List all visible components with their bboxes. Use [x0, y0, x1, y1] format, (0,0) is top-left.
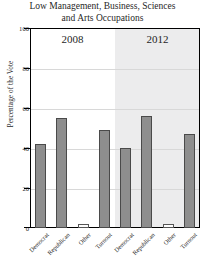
- chart-container: Low Management, Business, Sciences and A…: [0, 0, 205, 275]
- chart-title-line-2: and Arts Occupations: [0, 13, 205, 25]
- bar-2012-other: [163, 224, 174, 228]
- bar-2012-democrat: [120, 148, 131, 228]
- bar-2012-republican: [141, 116, 152, 228]
- bar-2008-democrat: [35, 144, 46, 228]
- y-axis-title: Percentage of the Vote: [7, 34, 15, 154]
- bar-2008-republican: [56, 118, 67, 228]
- bars-layer: [30, 28, 200, 228]
- chart-title: Low Management, Business, Sciences and A…: [0, 1, 205, 24]
- bar-2008-other: [78, 224, 89, 228]
- bar-2012-turnout: [184, 134, 195, 228]
- chart-title-line-1: Low Management, Business, Sciences: [0, 1, 205, 13]
- bar-2008-turnout: [99, 130, 110, 228]
